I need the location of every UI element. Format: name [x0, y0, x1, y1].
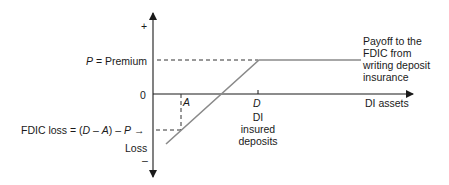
plus-sign: +: [141, 20, 147, 32]
fdic-loss-p: P: [124, 124, 131, 136]
fdic-loss-prefix: FDIC loss = (: [21, 124, 83, 136]
premium-var: P: [86, 55, 93, 67]
payoff-caption-line: FDIC from: [363, 47, 430, 59]
fdic-loss-a: A: [102, 124, 109, 136]
x-axis-label: DI assets: [365, 97, 409, 109]
d-caption-line: DI: [238, 111, 278, 123]
d-caption: DI insured deposits: [238, 111, 278, 147]
d-caption-line: insured: [238, 123, 278, 135]
payoff-diagram: [0, 0, 449, 185]
point-d-label: D: [253, 97, 261, 109]
point-a-label: A: [183, 96, 190, 108]
fdic-loss-mid: ) –: [109, 124, 124, 136]
right-arrow-icon: →: [131, 124, 144, 136]
fdic-loss-minus: –: [90, 124, 102, 136]
zero-label: 0: [140, 89, 146, 101]
premium-text: = Premium: [93, 55, 147, 67]
fdic-loss-label: FDIC loss = (D – A) – P →: [21, 124, 144, 136]
premium-label: P = Premium: [86, 55, 147, 67]
payoff-caption-line: insurance: [363, 71, 430, 83]
minus-sign: –: [142, 154, 148, 166]
payoff-caption: Payoff to the FDIC from writing deposit …: [363, 35, 430, 83]
payoff-caption-line: writing deposit: [363, 59, 430, 71]
d-caption-line: deposits: [238, 135, 278, 147]
loss-label: Loss: [125, 142, 147, 154]
payoff-caption-line: Payoff to the: [363, 35, 430, 47]
